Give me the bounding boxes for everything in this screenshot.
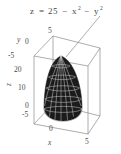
title-z: z (30, 6, 35, 16)
x-axis-label: x (47, 138, 52, 147)
title-minus-2: − (84, 6, 90, 16)
z-axis-tick-20: 20 (14, 65, 22, 74)
z-axis-tick-10: 10 (18, 83, 26, 92)
z-axis-baseline-neg5: -5 (22, 110, 28, 119)
title-minus-1: − (62, 6, 68, 16)
title-y: y (94, 6, 99, 16)
x-axis-tick-0: 0 (49, 124, 53, 133)
x-axis-tick-5: 5 (85, 137, 89, 146)
z-axis-label: z (4, 83, 13, 87)
y-axis-tick-5: 5 (48, 26, 52, 35)
title-equals: = (39, 6, 45, 16)
title-x: x (72, 6, 77, 16)
title-constant: 25 (48, 6, 58, 16)
surface-plot-figure: z = 25 − x 2 − y 2 y 0 5 -5 z 20 10 0 -5… (0, 0, 121, 154)
z-axis-tick-0: 0 (25, 101, 29, 110)
plot-canvas: z = 25 − x 2 − y 2 y 0 5 -5 z 20 10 0 -5… (0, 0, 121, 154)
title-x-exponent: 2 (78, 5, 81, 11)
title-y-exponent: 2 (100, 5, 103, 11)
y-axis-tick-neg5: -5 (8, 51, 14, 60)
y-axis-tick-0: 0 (25, 37, 29, 46)
y-axis-label: y (16, 35, 21, 44)
